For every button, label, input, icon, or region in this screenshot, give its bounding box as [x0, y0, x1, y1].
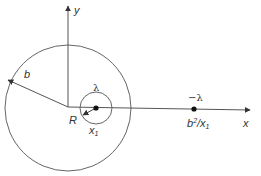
image-charge-dot [191, 106, 196, 111]
image-charge-label: −λ [188, 92, 203, 103]
radius-b-label: b [24, 68, 30, 80]
inner-charge-label: λ [93, 82, 100, 93]
inner-position-label: x1 [88, 124, 99, 137]
image-position-label: b2/x1 [187, 117, 210, 130]
radius-b-line [8, 80, 68, 107]
x-axis-label: x [242, 117, 249, 129]
inner-charge-dot [93, 105, 98, 110]
y-axis-label: y [73, 4, 81, 16]
radius-r-label: R [69, 114, 77, 126]
diagram-canvas: y x b R λ −λ x1 b2/x1 [0, 0, 261, 176]
